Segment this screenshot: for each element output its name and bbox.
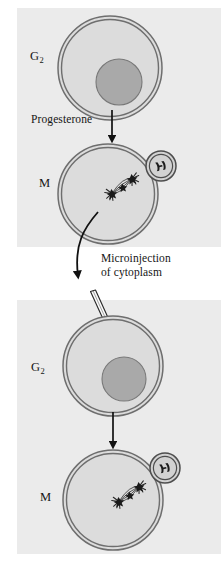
label-g2-top: G2 [30,49,44,64]
label-microinjection-line2: of cytoplasm [101,266,171,280]
label-microinjection: Microinjection of cytoplasm [101,252,171,279]
panel-top [17,8,221,247]
cell-cycle-microinjection-figure: G2 M Progesterone Microinjection of cyto… [0,0,224,562]
label-m-top: M [39,176,50,191]
label-progesterone: Progesterone [31,113,92,127]
label-g2-bottom: G2 [31,360,45,375]
label-m-bottom: M [40,490,51,505]
label-microinjection-line1: Microinjection [101,252,171,266]
panel-bottom [17,300,221,554]
